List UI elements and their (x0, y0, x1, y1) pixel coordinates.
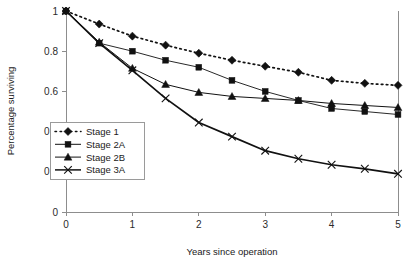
data-point-marker-x (228, 133, 236, 141)
legend-item-label: Stage 2B (86, 152, 125, 163)
legend-item-label: Stage 3A (86, 164, 126, 175)
y-axis-title: Percentage surviving (5, 67, 16, 156)
data-point-marker-square (65, 141, 71, 147)
data-point-marker-diamond (195, 49, 203, 57)
data-point-marker-diamond (162, 41, 170, 49)
legend-item-label: Stage 1 (86, 126, 119, 137)
data-point-marker-triangle (162, 80, 170, 87)
y-tick-label: 0.8 (44, 46, 58, 57)
survival-curve-chart: 00.20.40.60.81 012345 Stage 1Stage 2ASta… (0, 0, 409, 263)
data-point-marker-diamond (261, 62, 269, 70)
data-point-marker-square (130, 48, 136, 54)
data-point-marker-diamond (294, 68, 302, 76)
data-point-marker-diamond (95, 20, 103, 28)
chart-canvas: 00.20.40.60.81 012345 Stage 1Stage 2ASta… (0, 0, 409, 263)
chart-legend: Stage 1Stage 2AStage 2BStage 3A (50, 122, 144, 179)
y-tick-label: 0.6 (44, 86, 58, 97)
data-point-marker-diamond (361, 79, 369, 87)
x-tick-label: 2 (196, 219, 202, 230)
x-axis-title: Years since operation (186, 246, 277, 257)
data-point-marker-diamond (328, 76, 336, 84)
x-tick-label: 1 (130, 219, 136, 230)
x-tick-label: 3 (262, 219, 268, 230)
data-point-marker-square (395, 112, 401, 118)
y-axis-ticks: 00.20.40.60.81 (44, 6, 66, 218)
legend-item-label: Stage 2A (86, 139, 126, 150)
data-point-marker-diamond (128, 32, 136, 40)
data-point-marker-x (195, 119, 203, 127)
y-tick-label: 1 (52, 6, 58, 17)
x-tick-label: 0 (63, 219, 69, 230)
data-point-marker-diamond (228, 56, 236, 64)
x-tick-label: 5 (395, 219, 401, 230)
x-axis-ticks: 012345 (63, 212, 401, 230)
data-point-marker-square (196, 64, 202, 70)
data-point-marker-diamond (394, 81, 402, 89)
series-stage-1 (62, 7, 402, 89)
data-point-marker-square (229, 77, 235, 83)
y-tick-label: 0 (52, 207, 58, 218)
data-point-marker-square (362, 109, 368, 115)
data-point-marker-x (162, 95, 170, 103)
data-point-marker-square (262, 89, 268, 95)
axes (66, 11, 398, 212)
data-point-marker-square (163, 57, 169, 63)
x-tick-label: 4 (329, 219, 335, 230)
series-line (66, 11, 398, 85)
